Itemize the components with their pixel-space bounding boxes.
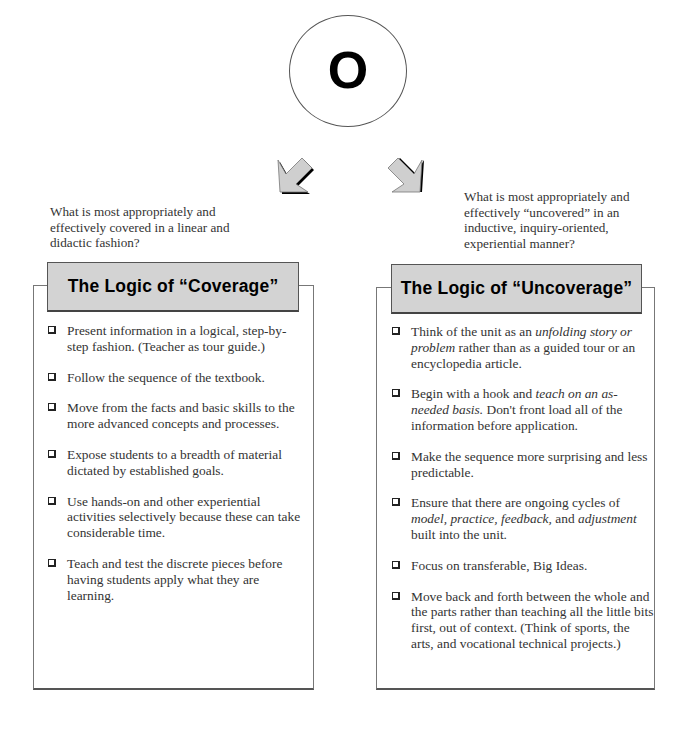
item-text: Follow the sequence of the textbook. (67, 370, 265, 385)
checkbox-icon (392, 592, 400, 600)
uncoverage-item: Think of the unit as an unfolding story … (392, 324, 654, 371)
item-text: Ensure that there are ongoing cycles of (411, 495, 620, 510)
coverage-item: Use hands-on and other experiential acti… (48, 494, 306, 541)
checkbox-icon (392, 498, 400, 506)
item-text: Make the sequence more surprising and le… (411, 449, 648, 480)
coverage-title-box: The Logic of “Coverage” (47, 262, 299, 312)
coverage-item: Follow the sequence of the textbook. (48, 370, 306, 386)
uncoverage-title-box: The Logic of “Uncoverage” (391, 264, 642, 314)
uncoverage-item: Ensure that there are ongoing cycles of … (392, 495, 654, 542)
item-text: Teach and test the discrete pieces befor… (67, 556, 282, 603)
uncoverage-item: Move back and forth between the whole an… (392, 589, 654, 652)
caption-line: didactic fashion? (50, 235, 280, 251)
arrow-down-left-icon (272, 148, 322, 200)
uncoverage-question: What is most appropriately and effective… (464, 189, 684, 251)
caption-line: experiential manner? (464, 236, 684, 252)
checkbox-icon (48, 497, 56, 505)
checkbox-icon (392, 389, 400, 397)
checkbox-icon (48, 403, 56, 411)
caption-line: effectively covered in a linear and (50, 220, 280, 236)
coverage-item: Expose students to a breadth of material… (48, 447, 306, 479)
item-text: Begin with a hook and (411, 386, 536, 401)
checkbox-icon (48, 559, 56, 567)
checkbox-icon (392, 561, 400, 569)
item-text: Think of the unit as an (411, 324, 535, 339)
circle-letter: O (328, 44, 368, 96)
coverage-title: The Logic of “Coverage” (68, 276, 279, 297)
item-text: Move back and forth between the whole an… (411, 589, 653, 651)
uncoverage-title: The Logic of “Uncoverage” (401, 278, 633, 299)
caption-line: What is most appropriately and (50, 204, 280, 220)
item-text: Expose students to a breadth of material… (67, 447, 282, 478)
caption-line: inductive, inquiry-oriented, (464, 220, 684, 236)
caption-line: What is most appropriately and (464, 189, 684, 205)
checkbox-icon (48, 326, 56, 334)
checkbox-icon (48, 450, 56, 458)
emphasis-text: model, practice, feedback, (411, 511, 552, 526)
uncoverage-item: Focus on transferable, Big Ideas. (392, 558, 654, 574)
checkbox-icon (48, 373, 56, 381)
item-text: Use hands-on and other experiential acti… (67, 494, 300, 541)
central-circle: O (289, 15, 407, 127)
arrow-down-right-icon (378, 148, 428, 200)
coverage-question: What is most appropriately and effective… (50, 204, 280, 251)
item-text: and (552, 511, 578, 526)
checkbox-icon (392, 452, 400, 460)
uncoverage-list: Think of the unit as an unfolding story … (392, 324, 654, 667)
item-text: built into the unit. (411, 527, 507, 542)
uncoverage-item: Begin with a hook and teach on an as-nee… (392, 386, 654, 433)
uncoverage-item: Make the sequence more surprising and le… (392, 449, 654, 481)
item-text: Move from the facts and basic skills to … (67, 400, 295, 431)
item-text: Focus on transferable, Big Ideas. (411, 558, 587, 573)
coverage-item: Present information in a logical, step-b… (48, 323, 306, 355)
coverage-item: Move from the facts and basic skills to … (48, 400, 306, 432)
coverage-list: Present information in a logical, step-b… (48, 323, 306, 618)
caption-line: effectively “uncovered” in an (464, 205, 684, 221)
checkbox-icon (392, 327, 400, 335)
coverage-item: Teach and test the discrete pieces befor… (48, 556, 306, 603)
emphasis-text: adjustment (578, 511, 637, 526)
item-text: Present information in a logical, step-b… (67, 323, 286, 354)
